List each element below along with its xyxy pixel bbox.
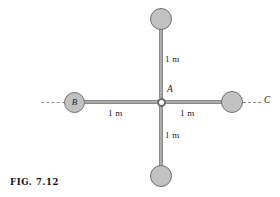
mass-bottom: [150, 165, 172, 187]
axis-dash-right: [243, 102, 261, 103]
mass-right-c: [221, 91, 243, 113]
mass-top: [150, 8, 172, 30]
mass-left-b-label: B: [72, 98, 78, 107]
rod-bottom: [159, 103, 163, 167]
axis-dash-left: [41, 102, 65, 103]
rod-right: [160, 100, 228, 104]
dimension-label-right: 1 m: [180, 108, 195, 118]
point-label-a: A: [167, 84, 173, 94]
figure-canvas: B A C 1 m 1 m 1 m 1 m FIG. 7.12: [0, 0, 280, 197]
center-pin-joint: [157, 98, 166, 107]
rod-top: [159, 26, 163, 98]
rod-left: [74, 100, 162, 104]
dimension-label-left: 1 m: [108, 108, 123, 118]
mass-left-b: B: [64, 92, 85, 113]
figure-caption: FIG. 7.12: [10, 177, 59, 187]
dimension-label-top: 1 m: [165, 54, 180, 64]
dimension-label-bottom: 1 m: [165, 130, 180, 140]
point-label-c: C: [264, 95, 270, 105]
